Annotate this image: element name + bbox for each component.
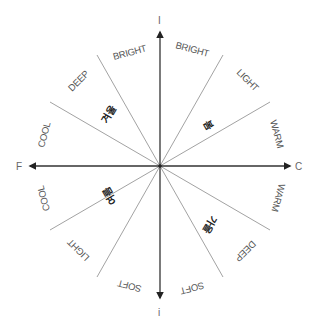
- axis-label-bottom: i: [158, 307, 160, 318]
- axis-label-top: I: [158, 15, 161, 26]
- label-bottom-right-deep: DEEP: [233, 239, 258, 264]
- label-left-upper-cool: COOL: [35, 121, 52, 149]
- personal-color-wheel-diagram: I i F C BRIGHT BRIGHT LIGHT WARM WARM DE…: [0, 0, 318, 334]
- sector-line-ene: [160, 102, 270, 166]
- season-label-autumn: 가을: [200, 214, 219, 236]
- label-top-right-light: LIGHT: [235, 67, 262, 94]
- label-left-lower-cool: COOL: [35, 185, 52, 213]
- sector-line-ssw: [97, 166, 160, 277]
- axis-label-left: F: [16, 161, 22, 172]
- center-point: [158, 164, 162, 168]
- label-right-lower-warm: WARM: [270, 182, 288, 213]
- axes: [30, 32, 290, 298]
- season-label-winter: 겨울: [98, 103, 117, 125]
- label-bottom-left-light: LIGHT: [65, 237, 92, 264]
- label-bottom-left-soft: SOFT: [116, 278, 143, 295]
- label-top-left-bright: BRIGHT: [112, 42, 148, 62]
- label-bottom-right-soft: SOFT: [179, 280, 206, 297]
- label-top-right-bright: BRIGHT: [174, 39, 210, 59]
- season-label-summer: 여름: [99, 185, 118, 207]
- season-label-spring: 봄: [201, 119, 215, 132]
- label-right-upper-warm: WARM: [268, 119, 286, 150]
- label-top-left-deep: DEEP: [66, 68, 91, 93]
- sector-line-nne: [160, 55, 223, 166]
- axis-label-right: C: [295, 161, 302, 172]
